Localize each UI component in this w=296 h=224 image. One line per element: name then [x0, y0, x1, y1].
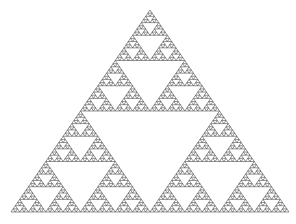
fractal-svg: [0, 0, 296, 224]
sierpinski-triangle-figure: [0, 0, 296, 224]
